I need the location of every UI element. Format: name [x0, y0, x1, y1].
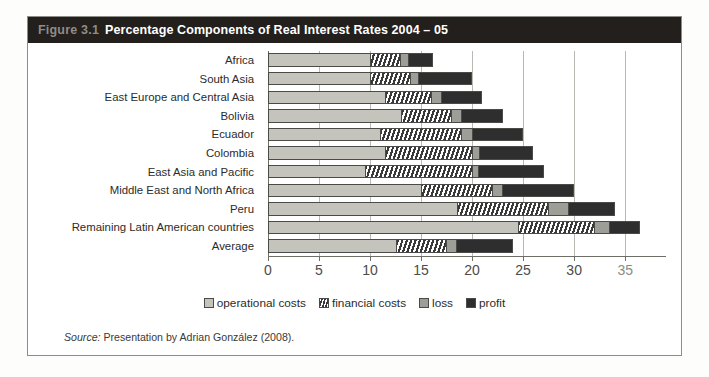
legend-label: loss [432, 296, 453, 310]
bar-segment-profit [441, 92, 481, 103]
stacked-bar [268, 72, 472, 85]
x-tick-mark [523, 256, 524, 261]
stacked-bar [268, 109, 503, 122]
legend-label: financial costs [332, 296, 406, 310]
y-axis-category-labels: AfricaSouth AsiaEast Europe and Central … [28, 51, 260, 256]
legend-item-financial: financial costs [319, 296, 406, 310]
bar-row [268, 107, 666, 126]
x-tick-label: 10 [362, 262, 378, 278]
bar-segment-profit [418, 73, 472, 84]
category-label: Peru [28, 200, 260, 219]
source-label: Source: [64, 331, 101, 343]
bar-row [268, 144, 666, 163]
bar-row [268, 218, 666, 237]
figure-box: Figure 3.1 Percentage Components of Real… [27, 16, 682, 356]
category-label: Africa [28, 51, 260, 70]
legend-swatch-loss [419, 298, 429, 308]
bar-segment-operational [269, 240, 396, 251]
bar-segment-financial [421, 185, 492, 196]
x-tick-label: 15 [413, 262, 429, 278]
figure-page: Figure 3.1 Percentage Components of Real… [0, 0, 709, 377]
chart-legend: operational costsfinancial costslossprof… [28, 296, 681, 310]
bar-segment-operational [269, 166, 365, 177]
bar-segment-financial [365, 166, 471, 177]
source-note: Source: Presentation by Adrian González … [64, 331, 294, 343]
bar-segment-financial [401, 110, 452, 121]
x-tick-mark [472, 256, 473, 261]
bar-segment-financial [370, 73, 410, 84]
bar-segment-operational [269, 73, 370, 84]
bar-segment-operational [269, 222, 518, 233]
bar-row [268, 200, 666, 219]
bar-segment-operational [269, 54, 370, 65]
x-axis: 05101520253035 [268, 256, 666, 286]
stacked-bar [268, 202, 615, 215]
bar-segment-financial [518, 222, 594, 233]
bar-segment-operational [269, 129, 380, 140]
category-label: Colombia [28, 144, 260, 163]
bar-segment-profit [461, 110, 501, 121]
legend-swatch-operational [204, 298, 214, 308]
figure-title-bar: Figure 3.1 Percentage Components of Real… [28, 17, 681, 43]
figure-number: Figure 3.1 [38, 23, 99, 37]
category-label: Middle East and North Africa [28, 181, 260, 200]
bar-row [268, 163, 666, 182]
bar-segment-operational [269, 185, 421, 196]
legend-item-operational: operational costs [204, 296, 306, 310]
bar-segment-financial [457, 203, 548, 214]
bar-segment-financial [385, 147, 471, 158]
bar-row [268, 181, 666, 200]
stacked-bar [268, 91, 482, 104]
legend-swatch-profit [466, 298, 476, 308]
bar-segment-loss [461, 129, 471, 140]
bar-segment-loss [451, 110, 461, 121]
x-tick-mark [625, 256, 626, 261]
x-tick-label: 30 [566, 262, 582, 278]
stacked-bar [268, 165, 544, 178]
bar-segment-operational [269, 110, 401, 121]
bar-segment-loss [400, 54, 408, 65]
bar-segment-financial [370, 54, 400, 65]
bar-segment-profit [456, 240, 512, 251]
bar-segment-operational [269, 147, 385, 158]
bar-segment-loss [492, 185, 502, 196]
plot-region [268, 51, 666, 256]
bar-segment-loss [410, 73, 417, 84]
x-tick-mark [421, 256, 422, 261]
legend-item-loss: loss [419, 296, 453, 310]
bar-segment-operational [269, 92, 385, 103]
x-tick-label: 0 [264, 262, 272, 278]
bar-segment-loss [594, 222, 609, 233]
category-label: South Asia [28, 70, 260, 89]
bar-row [268, 88, 666, 107]
legend-swatch-financial [319, 298, 329, 308]
stacked-bar [268, 128, 523, 141]
stacked-bar [268, 221, 640, 234]
category-label: Average [28, 237, 260, 256]
source-text: Presentation by Adrian González (2008). [103, 331, 294, 343]
chart-area: AfricaSouth AsiaEast Europe and Central … [28, 43, 681, 357]
bar-series-group [268, 51, 666, 256]
category-label: East Asia and Pacific [28, 163, 260, 182]
stacked-bar [268, 239, 513, 252]
bar-segment-financial [396, 240, 447, 251]
bar-segment-profit [472, 129, 523, 140]
figure-title: Percentage Components of Real Interest R… [105, 23, 448, 37]
x-tick-mark [574, 256, 575, 261]
bar-segment-loss [446, 240, 456, 251]
x-tick-mark [268, 256, 269, 261]
x-tick-label: 5 [315, 262, 323, 278]
x-tick-mark [319, 256, 320, 261]
bar-segment-profit [408, 54, 432, 65]
stacked-bar [268, 53, 433, 66]
bar-segment-profit [609, 222, 639, 233]
legend-item-profit: profit [466, 296, 505, 310]
bar-segment-profit [568, 203, 614, 214]
bar-segment-profit [502, 185, 573, 196]
category-label: Bolivia [28, 107, 260, 126]
bar-row [268, 125, 666, 144]
bar-segment-financial [380, 129, 461, 140]
x-tick-label: 25 [515, 262, 531, 278]
bar-segment-profit [478, 166, 543, 177]
category-label: Remaining Latin American countries [28, 218, 260, 237]
